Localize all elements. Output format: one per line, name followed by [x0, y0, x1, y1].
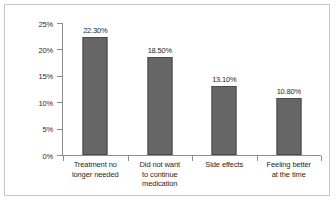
x-axis-category-label: Side effects — [192, 160, 257, 170]
bar-value-label: 10.80% — [277, 87, 301, 96]
bar[interactable] — [276, 98, 301, 155]
y-axis-tick: 15% — [57, 76, 62, 77]
y-axis-tick-label: 5% — [43, 125, 53, 134]
y-axis-tick: 20% — [57, 49, 62, 50]
y-axis-tick-mark — [57, 155, 62, 156]
bar-slot: 18.50% — [128, 23, 193, 155]
x-axis-category-label: Feeling betterat the time — [257, 160, 322, 179]
x-axis-category-label-line: Side effects — [192, 160, 257, 170]
y-axis-tick: 10% — [57, 102, 62, 103]
y-axis-tick-label: 0% — [43, 151, 53, 160]
x-axis-category-label: Treatment nolonger needed — [63, 160, 128, 179]
bar-slot: 22.30% — [63, 23, 128, 155]
y-axis-tick: 0% — [57, 155, 62, 156]
x-axis-category-label-line: longer needed — [63, 170, 128, 180]
y-axis-tick-label: 25% — [39, 19, 53, 28]
x-axis-category-label-line: medication — [128, 179, 193, 189]
bar-value-label: 22.30% — [83, 26, 107, 35]
bar-series: 22.30%18.50%13.10%10.80% — [63, 23, 321, 155]
bar[interactable] — [212, 86, 237, 155]
y-axis-tick-mark — [57, 49, 62, 50]
y-axis-tick-mark — [57, 23, 62, 24]
bar[interactable] — [83, 37, 108, 155]
bar-value-label: 18.50% — [148, 46, 172, 55]
bar-slot: 10.80% — [257, 23, 322, 155]
bar[interactable] — [147, 57, 172, 155]
x-axis-tick-mark — [321, 156, 322, 161]
bar-slot: 13.10% — [192, 23, 257, 155]
y-axis-tick-mark — [57, 102, 62, 103]
chart-frame: 25%20%15%10%5%0% 22.30%18.50%13.10%10.80… — [4, 4, 330, 196]
y-axis-tick-label: 20% — [39, 45, 53, 54]
x-axis-category-label: Did not wantto continuemedication — [128, 160, 193, 189]
y-axis-tick-label: 10% — [39, 98, 53, 107]
y-axis-tick: 25% — [57, 23, 62, 24]
y-axis-tick-label: 15% — [39, 72, 53, 81]
x-axis-category-label-line: at the time — [257, 170, 322, 180]
y-axis-tick-mark — [57, 76, 62, 77]
x-axis-category-label-line: Did not want — [128, 160, 193, 170]
plot-area: 22.30%18.50%13.10%10.80% — [63, 23, 321, 155]
y-axis-tick: 5% — [57, 129, 62, 130]
x-axis-category-label-line: Feeling better — [257, 160, 322, 170]
bar-value-label: 13.10% — [212, 75, 236, 84]
y-axis-tick-mark — [57, 129, 62, 130]
x-axis-category-label-line: to continue — [128, 170, 193, 180]
x-axis-category-label-line: Treatment no — [63, 160, 128, 170]
